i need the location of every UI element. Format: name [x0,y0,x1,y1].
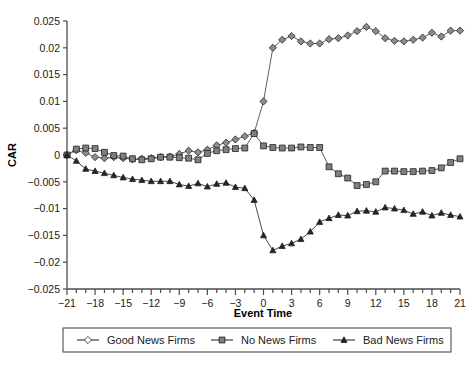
x-tick-label: 6 [317,297,323,309]
x-tick-label: −6 [201,297,213,309]
x-tick-label: 12 [370,297,382,309]
legend-marker-square-icon [219,337,225,343]
y-tick-label: 0.015 [34,68,60,80]
data-point-marker [279,145,285,151]
x-tick-label: 15 [398,297,410,309]
data-point-marker [289,145,295,151]
y-tick-label: 0.02 [40,42,61,54]
data-point-marker [130,156,136,162]
data-point-marker [232,146,238,152]
data-point-marker [429,168,435,174]
data-point-marker [261,143,267,149]
x-tick-label: −15 [114,297,132,309]
data-point-marker [401,169,407,175]
y-tick-label: 0.025 [34,15,60,27]
legend-label: Good News Firms [107,334,196,346]
x-tick-label: 9 [345,297,351,309]
data-point-marker [195,157,201,163]
data-point-marker [270,145,276,151]
data-point-marker [392,168,398,174]
data-point-marker [92,146,98,152]
x-tick-label: −18 [86,297,104,309]
data-point-marker [317,145,323,151]
x-tick-label: 21 [454,297,466,309]
data-point-marker [101,149,107,155]
data-point-marker [457,156,463,162]
data-point-marker [420,168,426,174]
data-point-marker [326,164,332,170]
y-tick-label: 0.005 [34,122,60,134]
y-tick-label: −0.02 [33,256,60,268]
data-point-marker [148,156,154,162]
data-point-marker [363,182,369,188]
y-tick-label: 0.01 [40,95,61,107]
y-tick-label: −0.005 [28,176,61,188]
data-point-marker [410,169,416,175]
data-point-marker [242,145,248,151]
data-point-marker [214,148,220,154]
data-point-marker [139,157,145,163]
legend-label: No News Firms [241,334,317,346]
data-point-marker [83,145,89,151]
data-point-marker [223,147,229,153]
data-point-marker [373,179,379,185]
y-tick-label: −0.025 [28,283,61,295]
y-axis-title: CAR [6,143,18,167]
legend-label: Bad News Firms [363,334,444,346]
x-tick-label: −21 [58,297,76,309]
data-point-marker [448,160,454,166]
car-event-study-chart: 0.0250.020.0150.010.0050−0.005−0.01−0.01… [0,0,476,367]
y-tick-label: −0.01 [33,202,60,214]
y-tick-label: 0 [54,149,60,161]
data-point-marker [167,154,173,160]
data-point-marker [158,154,164,160]
data-point-marker [176,155,182,161]
x-tick-label: −9 [173,297,185,309]
data-point-marker [120,153,126,159]
data-point-marker [204,150,210,156]
data-point-marker [438,165,444,171]
data-point-marker [345,175,351,181]
data-point-marker [186,155,192,161]
data-point-marker [307,145,313,151]
data-point-marker [73,146,79,152]
y-tick-label: −0.015 [28,229,61,241]
data-point-marker [111,153,117,159]
data-point-marker [382,168,388,174]
data-point-marker [251,131,257,137]
x-tick-label: 18 [426,297,438,309]
x-tick-label: −12 [142,297,160,309]
data-point-marker [335,171,341,177]
data-point-marker [354,183,360,189]
chart-figure: 0.0250.020.0150.010.0050−0.005−0.01−0.01… [0,0,476,367]
x-axis-title: Event Time [234,307,293,319]
data-point-marker [298,144,304,150]
chart-legend: Good News FirmsNo News FirmsBad News Fir… [63,328,451,352]
